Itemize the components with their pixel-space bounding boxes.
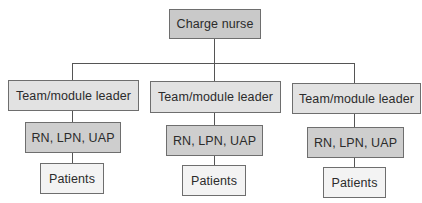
connector-leader-staff-1 [72, 110, 73, 122]
connector-staff-patients-3 [354, 157, 355, 167]
connector-leader-staff-3 [354, 113, 355, 127]
node-team-leader-1: Team/module leader [8, 80, 139, 111]
connector-to-team-1 [72, 63, 73, 80]
node-patients-2: Patients [182, 165, 246, 196]
node-team-leader-2: Team/module leader [150, 81, 281, 113]
connector-staff-patients-1 [72, 152, 73, 163]
connector-staff-patients-2 [214, 155, 215, 165]
node-patients-3: Patients [323, 167, 386, 198]
node-team-leader-3: Team/module leader [292, 83, 421, 114]
node-charge-nurse: Charge nurse [169, 9, 261, 39]
node-staff-3: RN, LPN, UAP [307, 127, 404, 158]
connector-root-down [214, 38, 215, 63]
connector-to-team-2 [214, 63, 215, 81]
connector-leader-staff-2 [214, 112, 215, 125]
connector-to-team-3 [354, 63, 355, 83]
node-staff-2: RN, LPN, UAP [166, 125, 263, 156]
org-chart: Charge nurse Team/module leader RN, LPN,… [0, 0, 422, 203]
node-staff-1: RN, LPN, UAP [25, 122, 121, 153]
node-patients-1: Patients [40, 163, 104, 194]
